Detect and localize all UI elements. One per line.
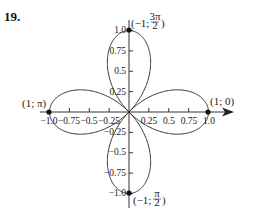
point-left — [46, 109, 51, 114]
y-tick-label: −0.5 — [109, 147, 126, 157]
x-tick-label: −0.25 — [98, 116, 120, 126]
svg-text:2: 2 — [154, 196, 160, 208]
y-tick-label: −0.25 — [104, 127, 126, 137]
y-tick-label: −0.75 — [104, 168, 126, 178]
svg-text:(−1;: (−1; — [133, 194, 151, 207]
point-bottom — [126, 190, 131, 195]
x-tick-label: 1.0 — [203, 116, 215, 126]
y-tick-label: −1.0 — [109, 188, 126, 198]
svg-text:): ) — [161, 17, 165, 30]
x-tick-label: 0.75 — [181, 116, 198, 126]
polar-rose-chart: −1.0 −0.75 −0.5 −0.25 0.25 0.5 0.75 1.0 … — [0, 0, 254, 212]
point-right — [205, 109, 210, 114]
y-tick-label: 0.25 — [109, 87, 126, 97]
x-tick-label: −0.75 — [58, 116, 80, 126]
svg-text:2: 2 — [152, 19, 158, 31]
point-label-right: (1; 0) — [210, 95, 234, 108]
point-label-bottom: (−1; π 2 ) — [133, 187, 166, 208]
x-tick-label: −1.0 — [40, 116, 57, 126]
svg-text:(−1;: (−1; — [131, 17, 149, 30]
y-tick-label: 1.0 — [114, 25, 126, 35]
point-label-top: (−1; 3π 2 ) — [131, 10, 165, 31]
point-label-left: (1; π) — [22, 97, 47, 110]
y-tick-label: 0.5 — [114, 66, 126, 76]
x-tick-label: −0.5 — [80, 116, 97, 126]
svg-text:): ) — [162, 194, 166, 207]
x-tick-label: 0.25 — [141, 116, 158, 126]
x-tick-label: 0.5 — [163, 116, 175, 126]
y-tick-label: 0.75 — [109, 46, 126, 56]
